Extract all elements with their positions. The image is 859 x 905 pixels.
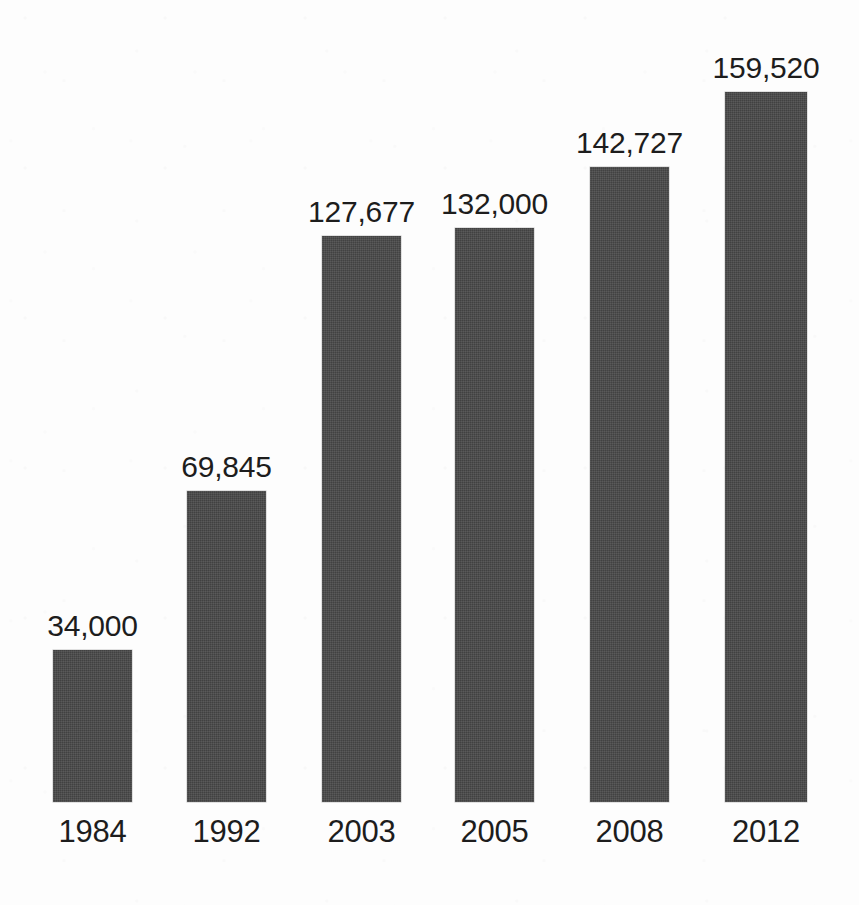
bar-value-label: 142,727 <box>576 126 683 160</box>
bar-rect[interactable] <box>590 167 669 802</box>
bar-group: 69,8451992 <box>187 0 266 905</box>
bar-group: 142,7272008 <box>590 0 669 905</box>
bar-group: 159,5202012 <box>725 0 807 905</box>
bar-value-label: 159,520 <box>712 51 819 85</box>
bar-value-label: 132,000 <box>441 187 548 221</box>
bar-category-label: 1984 <box>58 814 126 850</box>
bar-group: 132,0002005 <box>455 0 534 905</box>
bar-category-label: 2012 <box>732 814 800 850</box>
bar-value-label: 69,845 <box>181 450 272 484</box>
bar-category-label: 2005 <box>460 814 528 850</box>
bar-group: 34,0001984 <box>53 0 132 905</box>
bar-chart: 34,000198469,8451992127,6772003132,00020… <box>0 0 859 905</box>
bar-value-label: 127,677 <box>308 195 415 229</box>
bar-rect[interactable] <box>725 92 807 802</box>
bar-category-label: 2008 <box>595 814 663 850</box>
plot-area: 34,000198469,8451992127,6772003132,00020… <box>0 0 859 905</box>
bar-value-label: 34,000 <box>47 609 138 643</box>
bar-category-label: 2003 <box>327 814 395 850</box>
bar-rect[interactable] <box>187 491 266 802</box>
bar-rect[interactable] <box>455 228 534 802</box>
bar-rect[interactable] <box>53 650 132 802</box>
bar-group: 127,6772003 <box>322 0 401 905</box>
bar-category-label: 1992 <box>192 814 260 850</box>
bar-rect[interactable] <box>322 236 401 802</box>
